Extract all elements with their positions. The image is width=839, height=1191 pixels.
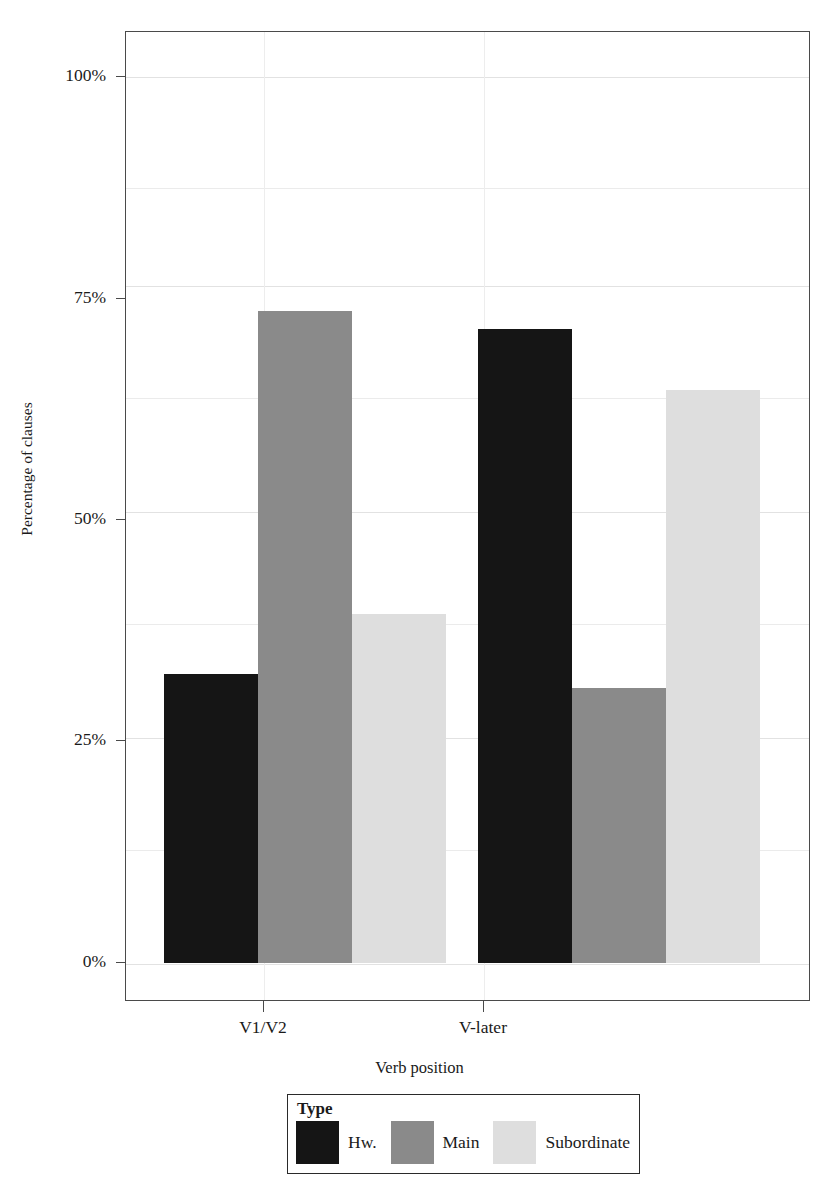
bar-vlater-hw[interactable] [478,329,572,963]
x-axis-title: Verb position [0,1058,839,1078]
legend-swatch-main [391,1121,434,1164]
bar-vlater-subordinate[interactable] [666,390,760,963]
bar-chart: 100% 75% 50% 25% 0% Percentage of clause… [0,0,839,1191]
legend-items: Hw. Main Subordinate [296,1121,644,1164]
legend-label-subordinate: Subordinate [545,1132,630,1153]
legend-swatch-hw [296,1121,339,1164]
ytick-50 [116,519,126,520]
ytick-label-0: 0% [26,953,106,971]
xtick-label-v1v2: V1/V2 [163,1017,363,1038]
bar-v1v2-main[interactable] [258,311,352,963]
legend-swatch-subordinate [493,1121,536,1164]
legend-item-main[interactable]: Main [391,1121,480,1164]
xtick-label-vlater: V-later [383,1017,583,1038]
gridline-0 [126,964,809,965]
ytick-100 [116,76,126,77]
legend-label-main: Main [443,1132,480,1153]
bar-v1v2-subordinate[interactable] [352,614,446,964]
ytick-label-25: 25% [26,731,106,749]
ytick-75 [116,298,126,299]
y-axis-title: Percentage of clauses [18,369,36,569]
legend: Type Hw. Main Subordinate [287,1094,640,1174]
legend-title: Type [297,1099,333,1119]
bar-v1v2-hw[interactable] [164,674,258,963]
bar-vlater-main[interactable] [572,688,666,963]
ytick-label-75: 75% [26,289,106,307]
ytick-label-50: 50% [26,510,106,528]
xtick-vlater [483,1001,484,1012]
ytick-25 [116,740,126,741]
legend-item-subordinate[interactable]: Subordinate [493,1121,630,1164]
legend-label-hw: Hw. [348,1132,377,1153]
ytick-0 [116,962,126,963]
xtick-v1v2 [263,1001,264,1012]
ytick-label-100: 100% [26,67,106,85]
legend-item-hw[interactable]: Hw. [296,1121,377,1164]
bars-layer [125,31,810,963]
